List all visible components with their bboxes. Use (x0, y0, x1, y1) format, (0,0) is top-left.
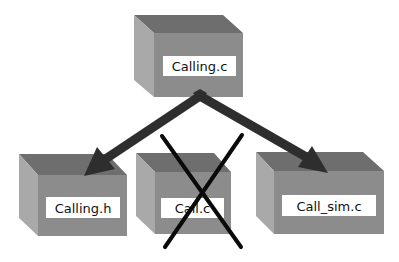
file-label-calling-h: Calling.h (55, 201, 112, 216)
arrow-shaft (104, 96, 200, 160)
arrow-shaft (200, 96, 308, 158)
file-box-calling-c: Calling.c (134, 15, 243, 97)
file-label-call-sim-c: Call_sim.c (296, 199, 361, 214)
dependency-diagram: Calling.c Calling.h Call.c Call_sim.c (0, 0, 399, 262)
file-label-calling-c: Calling.c (172, 59, 228, 74)
